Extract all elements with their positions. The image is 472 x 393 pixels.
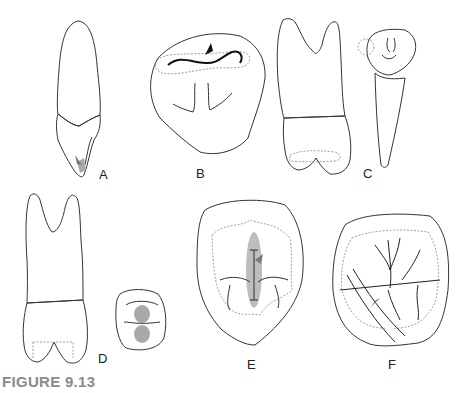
- groove: [208, 83, 232, 110]
- ridge-line: [168, 52, 242, 65]
- panel-label-f: F: [388, 357, 396, 372]
- tooth-c-proximal: [277, 19, 345, 118]
- panel-a: A: [57, 21, 109, 182]
- panel-f: F: [333, 214, 449, 372]
- panel-label-b: B: [196, 166, 205, 181]
- figure-canvas: A B C D E: [0, 0, 472, 393]
- figure-caption: FIGURE 9.13: [2, 373, 95, 390]
- panel-label-c: C: [363, 166, 372, 181]
- tooth-a-crown: [57, 114, 101, 177]
- pit-shade: [134, 305, 150, 323]
- tooth-c-oblique-crown: [367, 29, 416, 75]
- panel-label-d: D: [98, 351, 107, 366]
- panel-e: E: [197, 200, 303, 372]
- panel-d: D: [23, 194, 166, 366]
- contact-area: [358, 39, 374, 55]
- tooth-a-root: [57, 21, 100, 126]
- panel-c: C: [277, 19, 415, 181]
- groove: [173, 83, 195, 112]
- tooth-c-crown: [283, 116, 350, 174]
- tooth-c-oblique-root: [375, 73, 405, 167]
- panel-b: B: [151, 34, 265, 181]
- tooth-d-root: [26, 194, 83, 303]
- cusp-detail: [382, 38, 396, 59]
- oblique-band: [350, 272, 400, 340]
- panel-label-e: E: [247, 357, 256, 372]
- panel-label-a: A: [99, 167, 108, 182]
- pit-shade: [134, 325, 150, 343]
